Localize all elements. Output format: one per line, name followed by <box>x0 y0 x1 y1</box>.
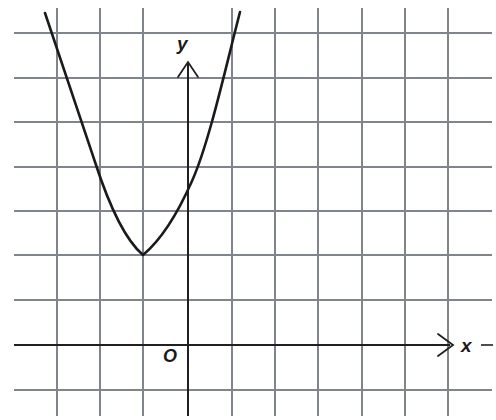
grid-vertical-lines <box>57 8 448 416</box>
coordinate-grid-figure <box>0 0 496 420</box>
y-axis <box>178 62 198 416</box>
figure-canvas: y x O <box>0 0 496 420</box>
y-axis-label: y <box>177 34 188 53</box>
grid-horizontal-lines <box>14 33 492 390</box>
x-axis-label: x <box>461 336 472 355</box>
x-axis <box>14 334 493 356</box>
origin-label: O <box>163 347 177 365</box>
